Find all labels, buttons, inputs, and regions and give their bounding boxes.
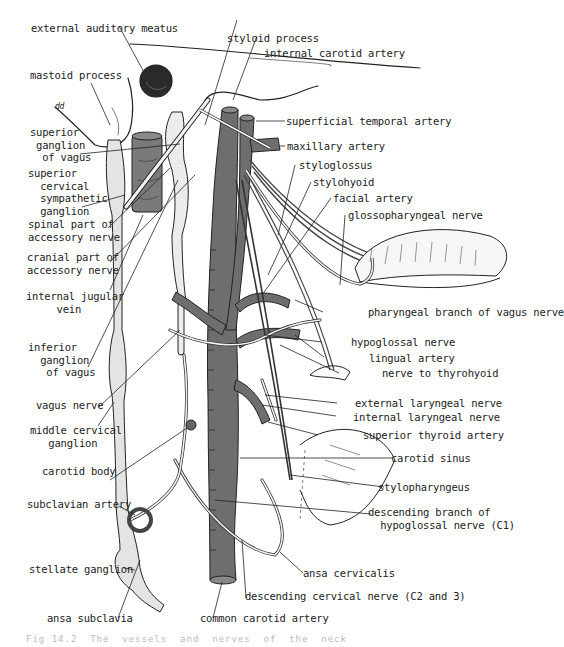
label-inferior-ganglion-of-vagus: inferior ganglion of vagus: [28, 341, 95, 379]
label-internal-carotid-artery: internal carotid artery: [264, 47, 405, 60]
label-superficial-temporal-artery: superficial temporal artery: [286, 115, 451, 128]
label-external-auditory-meatus: external auditory meatus: [31, 22, 178, 35]
label-internal-jugular-vein: internal jugular vein: [26, 290, 124, 315]
label-mastoid-process: mastoid process: [30, 69, 122, 82]
label-maxillary-artery: maxillary artery: [287, 140, 385, 153]
label-cranial-part-of-accessory-nerve: cranial part of accessory nerve: [27, 251, 119, 276]
label-styloglossus: styloglossus: [299, 159, 372, 172]
label-ansa-subclavia: ansa subclavia: [47, 612, 133, 625]
tongue-shape: [355, 230, 507, 288]
thyroid-cartilage-shape: [300, 366, 395, 525]
label-superior-thyroid-artery: superior thyroid artery: [363, 429, 504, 442]
label-facial-artery: facial artery: [333, 192, 413, 205]
label-vagus-nerve: vagus nerve: [36, 399, 103, 412]
label-external-laryngeal-nerve: external laryngeal nerve: [355, 397, 502, 410]
label-nerve-to-thyrohyoid: nerve to thyrohyoid: [382, 367, 498, 380]
label-ansa-cervicalis: ansa cervicalis: [303, 567, 395, 580]
label-internal-laryngeal-nerve: internal laryngeal nerve: [353, 411, 500, 424]
label-middle-cervical-ganglion: middle cervical ganglion: [30, 424, 122, 449]
label-superior-ganglion-of-vagus: superior ganglion of vagus: [30, 126, 91, 164]
label-hypoglossal-nerve: hypoglossal nerve: [351, 336, 455, 349]
label-glossopharyngeal-nerve: glossopharyngeal nerve: [348, 209, 483, 222]
label-superior-cervical-sympathetic-ganglion: superior cervical sympathetic ganglion: [28, 167, 108, 217]
label-pharyngeal-branch-of-vagus-nerve: pharyngeal branch of vagus nerve: [368, 306, 564, 319]
label-subclavian-artery: subclavian artery: [27, 498, 131, 511]
label-carotid-sinus: carotid sinus: [391, 452, 471, 465]
vagus-lower-shape: [130, 355, 187, 520]
label-stylopharyngeus: stylopharyngeus: [378, 481, 470, 494]
label-descending-branch-of-hypoglossal-nerve: descending branch of hypoglossal nerve (…: [368, 506, 515, 531]
corner-mark: dd: [55, 101, 64, 114]
label-lingual-artery: lingual artery: [369, 352, 455, 365]
external-auditory-meatus-shape: [140, 65, 172, 97]
label-carotid-body: carotid body: [42, 465, 115, 478]
label-descending-cervical-nerve: descending cervical nerve (C2 and 3): [245, 590, 465, 603]
label-stylohyoid: stylohyoid: [313, 176, 374, 189]
label-common-carotid-artery: common carotid artery: [200, 612, 329, 625]
label-stellate-ganglion: stellate ganglion: [29, 563, 133, 576]
figure-caption: Fig 14.2 The vessels and nerves of the n…: [26, 634, 347, 644]
label-spinal-part-of-accessory-nerve: spinal part of accessory nerve: [28, 218, 120, 243]
label-styloid-process: styloid process: [227, 32, 319, 45]
carotid-body-shape: [186, 420, 196, 430]
